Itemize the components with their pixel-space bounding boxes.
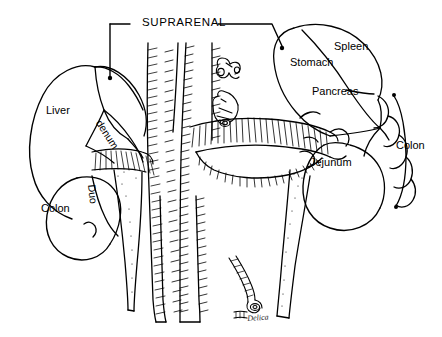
abdominal-aorta [165, 43, 220, 322]
diagram-canvas [0, 0, 442, 337]
label-suprarenal: SUPRARENAL [142, 17, 226, 29]
ureter-icon [229, 256, 262, 318]
leader-line-icon [108, 24, 130, 80]
label-pancreas: Pancreas [312, 86, 358, 97]
left-ureter [114, 170, 142, 311]
label-colon-right: Colon [396, 140, 425, 151]
pancreas-body [190, 112, 349, 159]
label-liver: Liver [46, 105, 70, 116]
vessel-stump-icon [216, 58, 240, 78]
duodenum-hatch-band [92, 149, 154, 175]
label-duodenum-duo: Duo [87, 184, 99, 204]
artist-signature: Delica [247, 313, 269, 323]
label-spleen: Spleen [334, 41, 368, 52]
right-ureter [277, 170, 310, 318]
right-colon-haustra [374, 96, 415, 207]
label-stomach: Stomach [290, 57, 333, 68]
inferior-vena-cava [147, 43, 178, 322]
left-colon-outline [46, 177, 120, 260]
label-jejunum: Jejunum [310, 157, 352, 168]
label-colon-left: Colon [41, 203, 70, 214]
anatomical-diagram: SUPRARENAL Liver denum Duo Colon Stomach… [0, 0, 442, 337]
colon-bracket-icon [392, 93, 406, 209]
